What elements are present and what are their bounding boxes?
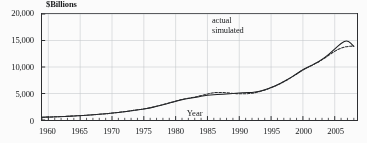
y-tick-label: 15,000: [11, 35, 34, 45]
x-tick-label: 1970: [103, 126, 120, 136]
x-tick-label: 1995: [263, 126, 280, 136]
x-tick-label: 1990: [231, 126, 248, 136]
x-tick-label: 1965: [71, 126, 88, 136]
x-tick-label: 1975: [135, 126, 152, 136]
x-tick-label: 2000: [295, 126, 312, 136]
y-tick-label: 10,000: [11, 62, 34, 72]
x-tick-label: 1985: [199, 126, 216, 136]
legend-label-simulated: simulated: [212, 26, 244, 35]
chart-figure: $Billions 05,00010,00015,00020,000 19601…: [0, 0, 367, 143]
y-tick-label: 0: [30, 116, 34, 126]
x-tick-label: 2005: [327, 126, 344, 136]
y-axis-label: $Billions: [46, 0, 77, 9]
y-axis-tick-labels: 05,00010,00015,00020,000: [0, 13, 34, 121]
x-axis-title: Year: [187, 108, 203, 118]
y-tick-label: 20,000: [11, 8, 34, 18]
x-tick-label: 1980: [167, 126, 184, 136]
chart-legend: actual simulated: [186, 16, 282, 38]
y-tick-label: 5,000: [15, 89, 34, 99]
x-axis-tick-labels: 1960196519701975198019851990199520002005: [41, 126, 358, 140]
legend-label-actual: actual: [212, 16, 231, 25]
x-tick-label: 1960: [39, 126, 56, 136]
